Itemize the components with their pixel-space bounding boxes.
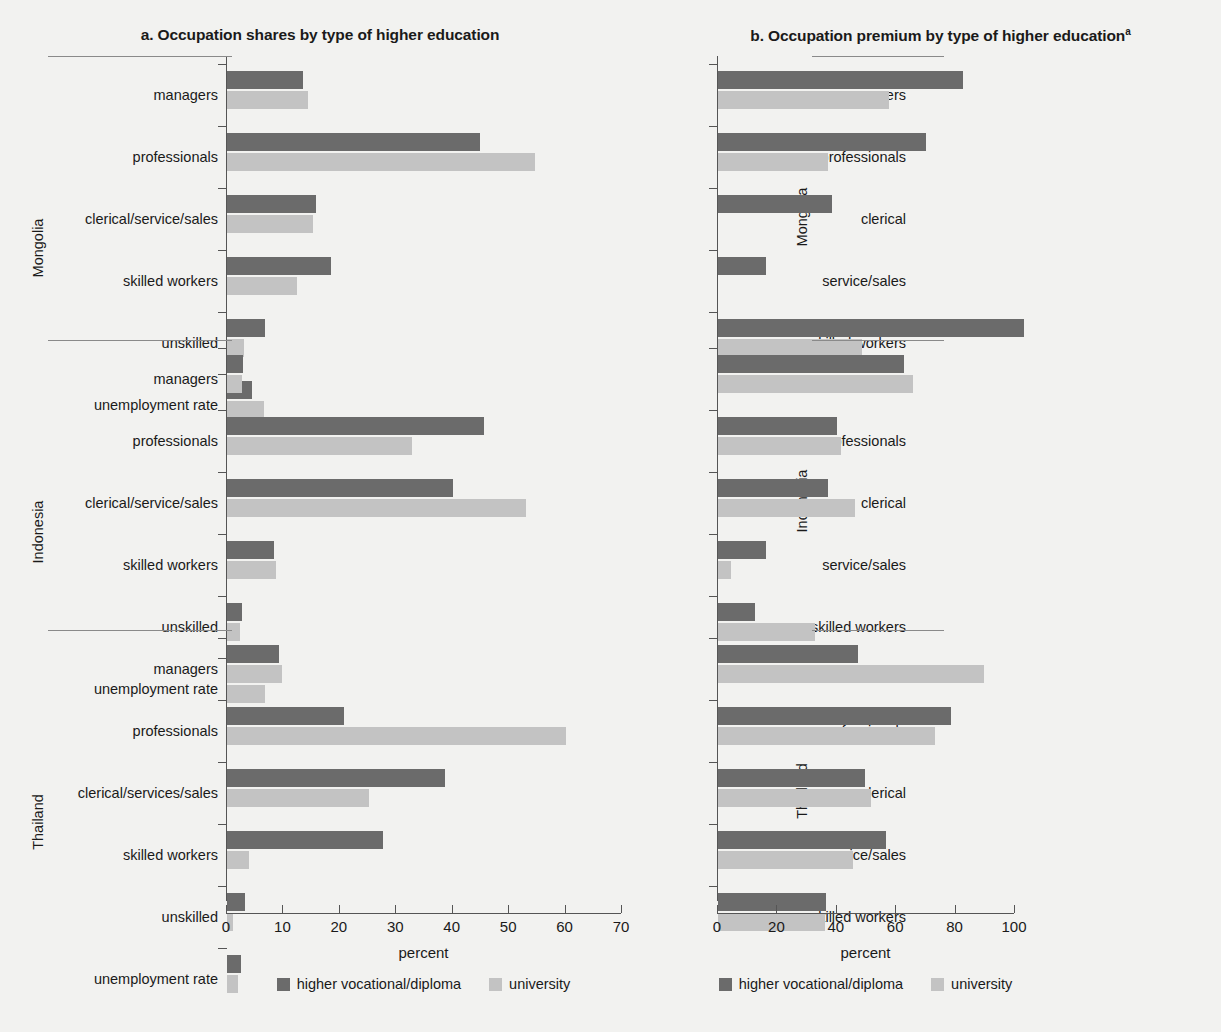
x-axis-tick — [282, 905, 283, 913]
y-axis-tick — [218, 410, 227, 411]
chart-row: professionals — [0, 700, 640, 762]
y-axis-tick — [709, 596, 718, 597]
bar-higher-vocational-diploma — [718, 417, 837, 435]
bar-university — [718, 561, 731, 579]
chart-row: clerical — [640, 188, 1221, 250]
x-axis-tick — [776, 905, 777, 913]
y-axis-tick — [218, 188, 227, 189]
y-axis-tick — [709, 700, 718, 701]
x-axis-tick-label: 80 — [925, 918, 985, 935]
y-axis-tick — [709, 824, 718, 825]
chart-row: skilled workers — [640, 886, 1221, 948]
category-label: managers — [10, 87, 218, 103]
y-axis-tick — [709, 188, 718, 189]
chart-row: clerical/service/sales — [0, 472, 640, 534]
y-axis-tick — [709, 638, 718, 639]
panel-b-legend: higher vocational/diplomauniversity — [717, 976, 1014, 992]
panel-occupation-shares: a. Occupation shares by type of higher e… — [0, 0, 640, 1032]
x-axis-tick-label: 0 — [196, 918, 256, 935]
bar-higher-vocational-diploma — [227, 355, 243, 373]
bar-higher-vocational-diploma — [718, 133, 926, 151]
category-label: skilled workers — [10, 557, 218, 573]
chart-row: managers — [640, 348, 1221, 410]
bar-university — [718, 665, 984, 683]
panel-b-title-footnote-marker: a — [1125, 26, 1130, 37]
bar-university — [718, 91, 889, 109]
bar-higher-vocational-diploma — [227, 71, 303, 89]
x-axis-tick-label: 60 — [865, 918, 925, 935]
bar-higher-vocational-diploma — [227, 893, 245, 911]
bar-higher-vocational-diploma — [227, 831, 383, 849]
y-axis-tick — [218, 64, 227, 65]
panel-a-legend: higher vocational/diplomauniversity — [226, 976, 621, 992]
bar-university — [227, 851, 249, 869]
bar-higher-vocational-diploma — [718, 707, 951, 725]
legend-label: university — [509, 976, 570, 992]
chart-row: managers — [0, 638, 640, 700]
bar-higher-vocational-diploma — [227, 195, 316, 213]
category-label: professionals — [10, 149, 218, 165]
chart-row: skilled workers — [0, 250, 640, 312]
bar-university — [718, 727, 935, 745]
category-label: managers — [10, 371, 218, 387]
chart-row: professionals — [640, 410, 1221, 472]
x-axis-tick-label: 60 — [535, 918, 595, 935]
group-separator — [48, 56, 232, 57]
panel-a-title: a. Occupation shares by type of higher e… — [0, 26, 640, 44]
category-label: unskilled — [10, 909, 218, 925]
legend-swatch-icon — [277, 978, 290, 991]
chart-row: managers — [640, 638, 1221, 700]
legend-item: higher vocational/diploma — [277, 976, 461, 992]
bar-university — [227, 665, 282, 683]
bar-higher-vocational-diploma — [227, 603, 242, 621]
bar-university — [227, 727, 566, 745]
bar-higher-vocational-diploma — [718, 71, 963, 89]
x-axis-tick — [226, 905, 227, 913]
panel-b-title: b. Occupation premium by type of higher … — [640, 26, 1221, 45]
legend-label: university — [951, 976, 1012, 992]
category-label: clerical/services/sales — [10, 785, 218, 801]
panel-a-x-title: percent — [226, 944, 621, 961]
chart-row: skilled workers — [0, 824, 640, 886]
x-axis-tick — [1014, 905, 1015, 913]
panel-b-title-text: b. Occupation premium by type of higher … — [750, 27, 1125, 44]
bar-university — [718, 153, 828, 171]
chart-row: skilled workers — [0, 534, 640, 596]
x-axis-tick-label: 40 — [422, 918, 482, 935]
group-separator — [48, 340, 232, 341]
bar-university — [227, 789, 369, 807]
x-axis-tick-label: 100 — [984, 918, 1044, 935]
legend-label: higher vocational/diploma — [739, 976, 903, 992]
x-axis-tick — [395, 905, 396, 913]
chart-row: clerical/service/sales — [0, 188, 640, 250]
x-axis-tick — [836, 905, 837, 913]
bar-higher-vocational-diploma — [718, 355, 904, 373]
x-axis-tick — [565, 905, 566, 913]
legend-swatch-icon — [489, 978, 502, 991]
panel-b-x-axis — [717, 913, 1014, 914]
x-axis-tick-label: 20 — [746, 918, 806, 935]
bar-higher-vocational-diploma — [718, 831, 886, 849]
group-separator — [48, 630, 232, 631]
panel-b-plot: Mongoliamanagersprofessionalsclericalser… — [640, 56, 1221, 901]
chart-row: professionals — [640, 700, 1221, 762]
y-axis-tick — [709, 534, 718, 535]
bar-higher-vocational-diploma — [227, 479, 453, 497]
chart-row: professionals — [0, 410, 640, 472]
bar-university — [718, 851, 853, 869]
x-axis-tick-label: 10 — [252, 918, 312, 935]
category-label: clerical/service/sales — [10, 495, 218, 511]
category-label: managers — [10, 661, 218, 677]
panel-occupation-premium: b. Occupation premium by type of higher … — [640, 0, 1221, 1032]
y-axis-tick — [218, 824, 227, 825]
bar-university — [227, 499, 526, 517]
bar-higher-vocational-diploma — [718, 195, 832, 213]
x-axis-tick — [955, 905, 956, 913]
chart-row: clerical/services/sales — [0, 762, 640, 824]
y-axis-tick — [218, 348, 227, 349]
category-label: unemployment rate — [10, 971, 218, 987]
bar-higher-vocational-diploma — [718, 479, 828, 497]
chart-row: service/sales — [640, 824, 1221, 886]
chart-row: unskilled — [0, 886, 640, 948]
category-label: service/sales — [640, 273, 906, 289]
